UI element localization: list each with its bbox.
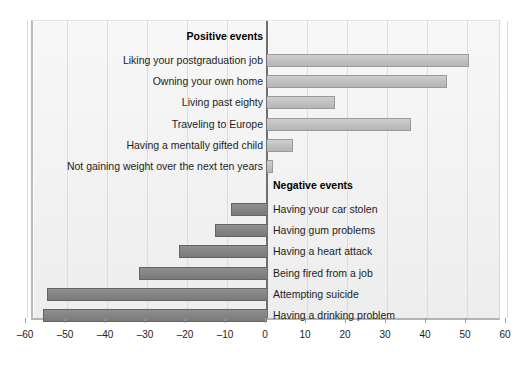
axis-tick	[185, 318, 186, 323]
group-title-negative-events: Negative events	[273, 179, 353, 192]
bar	[231, 203, 267, 216]
plot-area: Liking your postgraduation jobOwning you…	[31, 20, 500, 320]
axis-tick-label: 20	[325, 329, 365, 340]
axis-tick	[145, 318, 146, 323]
category-label: Being fired from a job	[273, 267, 373, 280]
bar	[179, 245, 267, 258]
bar	[267, 118, 411, 131]
axis-tick-label: –20	[165, 329, 205, 340]
category-label: Having a heart attack	[273, 245, 372, 258]
axis-tick	[385, 318, 386, 323]
axis-tick-label: –50	[45, 329, 85, 340]
bar	[267, 75, 447, 88]
category-label: Owning your own home	[33, 75, 263, 88]
axis-tick	[25, 318, 26, 323]
axis-tick	[425, 318, 426, 323]
axis-tick-label: –30	[125, 329, 165, 340]
bar	[267, 160, 273, 173]
category-label: Having a mentally gifted child	[33, 139, 263, 152]
axis-tick-label: 0	[245, 329, 285, 340]
axis-tick	[465, 318, 466, 323]
bar	[267, 96, 335, 109]
axis-tick-label: 60	[485, 329, 525, 340]
axis-tick-label: 40	[405, 329, 445, 340]
category-label: Liking your postgraduation job	[33, 54, 263, 67]
axis-tick-label: 10	[285, 329, 325, 340]
axis-tick-label: –40	[85, 329, 125, 340]
group-title-positive-events: Positive events	[33, 30, 263, 43]
category-label: Not gaining weight over the next ten yea…	[33, 160, 263, 173]
bar-chart: Liking your postgraduation jobOwning you…	[0, 0, 531, 365]
gridline	[507, 21, 508, 318]
axis-tick-label: –60	[5, 329, 45, 340]
axis-tick	[345, 318, 346, 323]
category-label: Having gum problems	[273, 224, 375, 237]
axis-tick-label: 30	[365, 329, 405, 340]
axis-tick	[105, 318, 106, 323]
bar	[139, 267, 267, 280]
axis-tick	[305, 318, 306, 323]
axis-tick	[265, 318, 266, 323]
bar	[43, 309, 267, 322]
bar	[215, 224, 267, 237]
category-label: Living past eighty	[33, 96, 263, 109]
axis-tick-label: 50	[445, 329, 485, 340]
axis-tick	[65, 318, 66, 323]
axis-tick	[505, 318, 506, 323]
bar	[47, 288, 267, 301]
axis-tick-label: –10	[205, 329, 245, 340]
bar	[267, 139, 293, 152]
category-label: Having your car stolen	[273, 203, 377, 216]
category-label: Having a drinking problem	[273, 309, 395, 322]
category-label: Attempting suicide	[273, 288, 359, 301]
axis-tick	[225, 318, 226, 323]
gridline	[27, 21, 28, 318]
bar	[267, 54, 469, 67]
category-label: Traveling to Europe	[33, 118, 263, 131]
